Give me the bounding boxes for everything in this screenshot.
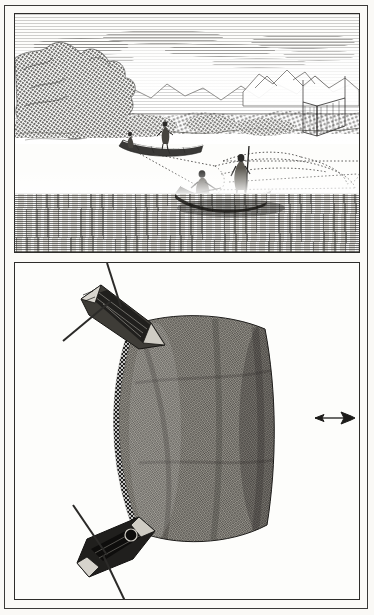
- fishing-scene: [15, 14, 359, 252]
- upper-towing-boat: [63, 263, 165, 349]
- bottom-panel-overhead-diagram: [14, 262, 360, 600]
- boat-fitting: [125, 529, 137, 541]
- net-plan-ink: [15, 263, 360, 600]
- top-panel-perspective-scene: [14, 13, 360, 253]
- water-foreground-ink: [15, 14, 359, 252]
- engraving-plate: [0, 0, 374, 615]
- trawl-net-bag: [116, 316, 291, 543]
- direction-arrow: [315, 412, 355, 424]
